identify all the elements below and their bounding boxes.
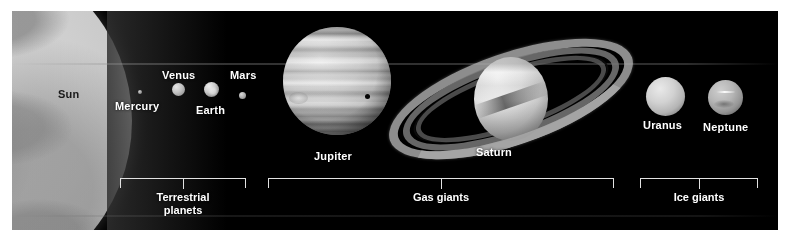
planet-mercury: [138, 90, 142, 94]
image-plate: Sun Mercury Venus Earth Mars Jupiter Sat…: [12, 11, 778, 230]
planet-earth: [204, 82, 219, 97]
label-saturn: Saturn: [476, 146, 512, 158]
bracket-center-tick: [441, 178, 442, 189]
bracket-center-tick: [699, 178, 700, 189]
label-earth: Earth: [196, 104, 225, 116]
bracket-end-right: [245, 178, 246, 188]
label-jupiter: Jupiter: [314, 150, 352, 162]
group-label-ice-giants: Ice giants: [640, 191, 758, 204]
neptune-dark-spot: [714, 100, 733, 108]
neptune-cloud-streak: [716, 91, 736, 93]
planet-uranus: [646, 77, 685, 116]
bracket-end-left: [640, 178, 641, 188]
solar-system-figure: Sun Mercury Venus Earth Mars Jupiter Sat…: [0, 0, 796, 243]
label-uranus: Uranus: [643, 119, 682, 131]
bracket-end-right: [757, 178, 758, 188]
label-mars: Mars: [230, 69, 256, 81]
jupiter-limb-darkening: [283, 27, 391, 135]
planet-venus: [172, 83, 185, 96]
bracket-end-left: [120, 178, 121, 188]
planet-mars: [239, 92, 246, 99]
planet-neptune: [708, 80, 743, 115]
saturn-belts: [474, 57, 548, 141]
label-venus: Venus: [162, 69, 195, 81]
bracket-end-right: [613, 178, 614, 188]
group-label-terrestrial: Terrestrial planets: [120, 191, 246, 217]
bracket-end-left: [268, 178, 269, 188]
bracket-terrestrial: [120, 178, 246, 190]
label-mercury: Mercury: [115, 100, 159, 112]
sun-granulation: [12, 11, 132, 230]
label-neptune: Neptune: [703, 121, 748, 133]
planet-saturn: [474, 57, 548, 141]
bracket-center-tick: [183, 178, 184, 189]
bracket-gas-giants: [268, 178, 614, 190]
planet-jupiter: [283, 27, 391, 135]
label-sun: Sun: [58, 88, 79, 100]
bracket-ice-giants: [640, 178, 758, 190]
group-label-gas-giants: Gas giants: [268, 191, 614, 204]
